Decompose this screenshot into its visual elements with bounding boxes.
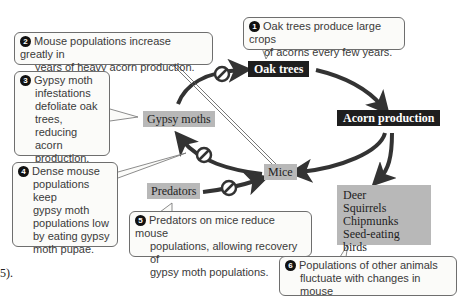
node-acorn-production: Acorn production xyxy=(337,110,440,126)
callout-text: gypsy moth xyxy=(18,204,112,217)
callout-text: moth pupae. xyxy=(18,243,112,256)
callout-text: Mouse populations increase greatly in xyxy=(20,35,171,60)
callout-6: 6Populations of other animals fluctuate … xyxy=(279,256,457,296)
callout-text: of acorns every few years. xyxy=(249,46,399,59)
callout-text: defoliate oak xyxy=(20,100,104,113)
arrow-oak-to-acorn xyxy=(316,70,382,106)
node-gypsy-moths: Gypsy moths xyxy=(143,111,215,127)
callout-text: by eating gypsy xyxy=(18,230,112,243)
callout-5: 5Predators on mice reduce mouse populati… xyxy=(129,211,312,257)
callout-text: Oak trees produce large crops xyxy=(249,20,381,45)
animal-item: Seed-eating birds xyxy=(343,228,425,254)
callout-1: 1Oak trees produce large crops of acorns… xyxy=(243,17,405,50)
callout-text: acorn xyxy=(20,139,104,152)
arrow-mice-to-gypsy xyxy=(182,140,262,174)
callout-2: 2Mouse populations increase greatly in y… xyxy=(14,32,213,65)
page-text-fragment: 5). xyxy=(0,266,13,281)
node-oak-trees: Oak trees xyxy=(248,61,309,77)
callout-4: 4Dense mouse populations keep gypsy moth… xyxy=(12,162,118,247)
callout-text: populations keep xyxy=(18,178,112,204)
step-number-icon: 1 xyxy=(249,21,260,32)
step-number-icon: 4 xyxy=(18,166,29,177)
callout-text: trees, reducing xyxy=(20,113,104,139)
callout-text: populations low xyxy=(18,217,112,230)
callout-text: infestations xyxy=(20,87,104,100)
callout-text: Predators on mice reduce mouse xyxy=(135,214,275,239)
step-number-icon: 6 xyxy=(285,260,296,271)
node-predators: Predators xyxy=(147,183,200,199)
step-number-icon: 2 xyxy=(20,36,31,47)
step-number-icon: 5 xyxy=(135,215,146,226)
arrow-acorn-to-mice xyxy=(300,133,385,172)
node-other-animals: Deer Squirrels Chipmunks Seed-eating bir… xyxy=(337,185,431,245)
callout-text: Gypsy moth xyxy=(34,74,93,86)
callout-text: Populations of other animals xyxy=(299,259,438,271)
callout-3: 3Gypsy moth infestations defoliate oak t… xyxy=(14,71,110,156)
callout-text: Dense mouse xyxy=(32,165,100,177)
node-mice: Mice xyxy=(264,164,297,180)
step-number-icon: 3 xyxy=(20,75,31,86)
callout-text: fluctuate with changes in mouse xyxy=(285,272,451,298)
